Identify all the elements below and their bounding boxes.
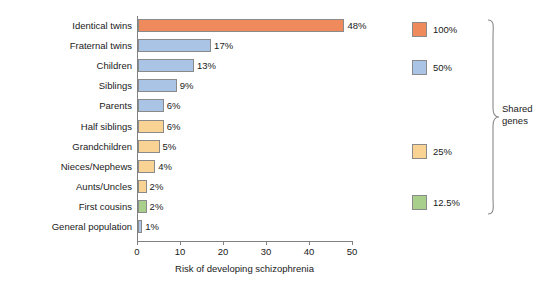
x-axis-tick-label: 50 — [337, 246, 367, 258]
legend-item: 12.5% — [412, 195, 460, 210]
bar — [138, 180, 147, 193]
bar-value-label: 5% — [163, 140, 177, 153]
legend-item: 25% — [412, 144, 452, 159]
legend-item: 50% — [412, 60, 452, 75]
legend-color-swatch — [412, 22, 427, 37]
bar-value-label: 2% — [150, 180, 164, 193]
legend-item-label: 25% — [433, 146, 452, 158]
legend-item-label: 12.5% — [433, 197, 460, 209]
bar-value-label: 9% — [180, 79, 194, 92]
bar — [138, 39, 211, 52]
category-label: General population — [52, 220, 132, 233]
x-axis-tick-label: 20 — [208, 246, 238, 258]
bar — [138, 220, 142, 233]
x-axis-tick — [309, 241, 310, 245]
bar — [138, 99, 164, 112]
bar-value-label: 6% — [167, 120, 181, 133]
category-label: Nieces/Nephews — [61, 160, 132, 173]
bar-value-label: 48% — [347, 19, 366, 32]
legend-color-swatch — [412, 60, 427, 75]
bar-value-label: 13% — [197, 59, 216, 72]
category-label: Grandchildren — [72, 140, 132, 153]
bar — [138, 120, 164, 133]
category-label: Parents — [99, 99, 132, 112]
bar-value-label: 4% — [158, 160, 172, 173]
category-label: Fraternal twins — [70, 39, 132, 52]
category-label: Identical twins — [72, 19, 132, 32]
legend-color-swatch — [412, 144, 427, 159]
legend-item: 100% — [412, 22, 457, 37]
bar — [138, 19, 344, 32]
x-axis-tick — [137, 241, 138, 245]
legend-color-swatch — [412, 195, 427, 210]
x-axis-title: Risk of developing schizophrenia — [137, 263, 352, 274]
bar-value-label: 2% — [150, 200, 164, 213]
x-axis-tick-label: 40 — [294, 246, 324, 258]
plot-area: 48%17%13%9%6%6%5%4%2%2%1% — [137, 16, 352, 241]
y-axis-category-labels: Identical twinsFraternal twinsChildrenSi… — [0, 16, 132, 241]
x-axis-tick — [266, 241, 267, 245]
bar — [138, 160, 155, 173]
bar-value-label: 6% — [167, 99, 181, 112]
bar — [138, 59, 194, 72]
brace-icon — [486, 18, 500, 216]
legend-item-label: 50% — [433, 62, 452, 74]
legend-group-label: Shared genes — [502, 103, 533, 127]
x-axis-line — [137, 241, 352, 242]
category-label: Half siblings — [81, 120, 132, 133]
x-axis-tick — [352, 241, 353, 245]
x-axis-tick — [180, 241, 181, 245]
legend-group-label-line-1: Shared — [502, 103, 533, 115]
bar-value-label: 17% — [214, 39, 233, 52]
bar — [138, 200, 147, 213]
bar — [138, 79, 177, 92]
x-axis-tick-label: 10 — [165, 246, 195, 258]
x-axis-tick — [223, 241, 224, 245]
legend-group-label-line-2: genes — [502, 115, 533, 127]
x-axis-tick-label: 0 — [122, 246, 152, 258]
x-axis-tick-label: 30 — [251, 246, 281, 258]
category-label: Siblings — [99, 79, 132, 92]
bar-value-label: 1% — [145, 220, 159, 233]
bar — [138, 140, 160, 153]
category-label: Aunts/Uncles — [76, 180, 132, 193]
legend-item-label: 100% — [433, 24, 457, 36]
category-label: First cousins — [79, 200, 132, 213]
legend: Shared genes 100%50%25%12.5% — [410, 0, 529, 240]
category-label: Children — [97, 59, 132, 72]
